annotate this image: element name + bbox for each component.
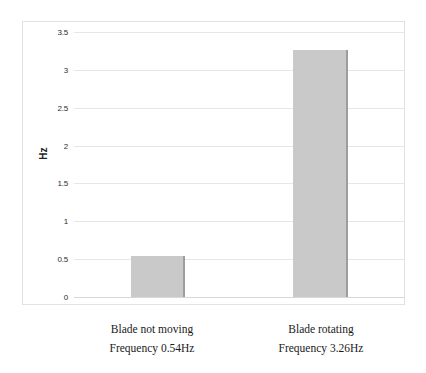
y-tick-label-3-5: 3.5 [57,28,68,37]
bar-blade-not-moving[interactable] [131,256,185,297]
bar-chart-figure: 3.5 3 2.5 2 1.5 1 0.5 0 Hz Blade not mov… [0,0,426,373]
plot-area: 3.5 3 2.5 2 1.5 1 0.5 0 [74,32,405,297]
gridline-3-0 [74,70,405,71]
y-tick-label-1: 1 [64,217,68,226]
y-axis-title: Hz [38,147,49,161]
category-label-line2: Frequency 0.54Hz [78,339,226,358]
gridline-3-5 [74,32,405,33]
chart-plot-frame: 3.5 3 2.5 2 1.5 1 0.5 0 [22,21,405,305]
bar-blade-rotating[interactable] [293,50,348,297]
gridline-1-5 [74,183,405,184]
gridline-2-0 [74,146,405,147]
y-tick-label-0: 0 [64,293,68,302]
category-label-blade-rotating: Blade rotating Frequency 3.26Hz [247,320,395,358]
gridline-0-5 [74,259,405,260]
gridline-2-5 [74,108,405,109]
y-tick-label-0-5: 0.5 [57,255,68,264]
category-label-blade-not-moving: Blade not moving Frequency 0.54Hz [78,320,226,358]
category-label-line2: Frequency 3.26Hz [247,339,395,358]
y-tick-label-1-5: 1.5 [57,179,68,188]
y-tick-label-2-5: 2.5 [57,103,68,112]
category-label-line1: Blade rotating [247,320,395,339]
y-tick-label-3: 3 [64,65,68,74]
y-tick-label-2: 2 [64,141,68,150]
category-label-line1: Blade not moving [78,320,226,339]
gridline-1-0 [74,221,405,222]
gridline-baseline-0 [74,297,405,298]
